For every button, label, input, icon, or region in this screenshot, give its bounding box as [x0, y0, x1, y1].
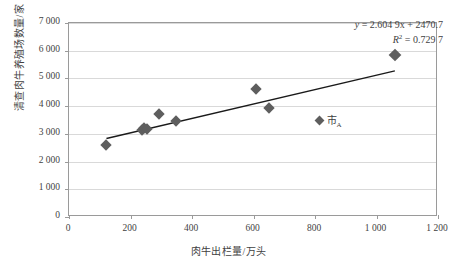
legend-label-subscript: A: [337, 121, 342, 129]
legend: 市A: [316, 112, 342, 129]
legend-marker-icon: [314, 115, 324, 125]
trendline: [0, 0, 457, 270]
scatter-chart: 01 0002 0003 0004 0005 0006 0007 0000200…: [0, 0, 457, 270]
legend-label: 市A: [327, 112, 342, 129]
